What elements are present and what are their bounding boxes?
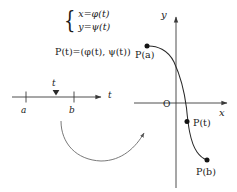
point-marker-Pt — [185, 119, 190, 124]
t-number-line — [12, 90, 101, 103]
point-definition: P(t)=(φ(t), ψ(t)) — [55, 47, 131, 57]
coordinate-axes — [134, 17, 227, 188]
point-marker-Pa — [145, 44, 150, 49]
t-label-a: a — [21, 106, 26, 115]
equation-y: y=ψ(t) — [78, 22, 110, 32]
point-label-Pt: P(t) — [193, 118, 211, 128]
y-axis-label: y — [161, 10, 167, 20]
figure-vector-layer — [0, 0, 237, 192]
t-parameter-marker-icon — [53, 90, 60, 96]
mapping-arrow — [61, 121, 144, 161]
point-label-Pb: P(b) — [196, 167, 216, 177]
point-label-Pa: P(a) — [135, 50, 154, 60]
point-marker-Pb — [205, 158, 210, 163]
parametric-system: { x=φ(t) y=ψ(t) — [62, 9, 110, 31]
equation-x: x=φ(t) — [78, 9, 110, 19]
system-brace: { — [64, 11, 75, 30]
t-axis-label: t — [108, 91, 112, 100]
x-axis-label: x — [219, 108, 225, 118]
parametric-curve-figure: { x=φ(t) y=ψ(t) P(t)=(φ(t), ψ(t)) t a b … — [0, 0, 237, 192]
origin-label: O — [163, 100, 170, 109]
t-label-b: b — [69, 106, 75, 115]
system-equations: x=φ(t) y=ψ(t) — [78, 9, 110, 31]
t-parameter-label: t — [52, 79, 56, 88]
